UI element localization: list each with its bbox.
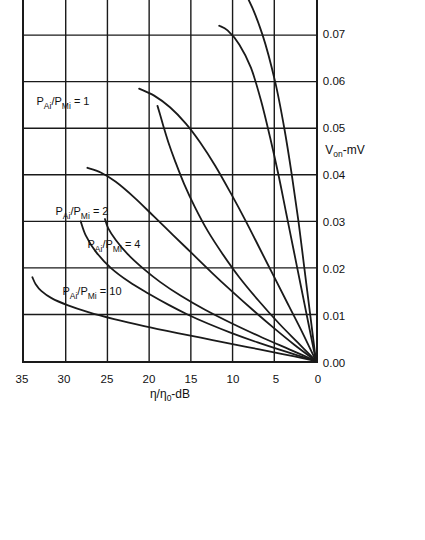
x-tick-label: 0.05 [323,122,345,134]
y-tick-label: 30 [58,373,71,385]
y-axis-title-units: -dB [171,387,190,401]
y-tick-label: 35 [16,373,29,385]
y-tick-label: 5 [273,373,279,385]
x-axis-title-main: V [325,143,333,157]
data-curve [139,89,316,361]
x-tick-label: 0.02 [323,263,345,275]
x-tick-label: 0.04 [323,169,345,181]
chart-figure: PAi/PMi = 10PAi/PMi = 4PAi/PMi = 2PAi/PM… [0,0,425,425]
y-axis-title: η/η0-dB [150,387,190,403]
y-tick-label: 0 [315,373,321,385]
x-axis-title-units: -mV [343,143,365,157]
figure-rotator: PAi/PMi = 10PAi/PMi = 4PAi/PMi = 2PAi/PM… [0,0,425,425]
y-tick-label: 25 [100,373,113,385]
curve-layer [24,0,316,361]
y-tick-label: 10 [227,373,240,385]
x-tick-label: 0.00 [323,357,345,369]
x-axis-title: Von-mV [325,143,364,159]
y-axis-title-main: η/η [150,387,167,401]
x-tick-label: 0.03 [323,216,345,228]
x-tick-label: 0.01 [323,310,345,322]
y-tick-label: 20 [142,373,155,385]
y-tick-label: 15 [185,373,198,385]
x-tick-label: 0.07 [323,28,345,40]
data-curve [157,106,316,361]
data-curve [153,0,316,361]
x-tick-label: 0.06 [323,75,345,87]
data-curve [87,168,316,361]
plot-area: PAi/PMi = 10PAi/PMi = 4PAi/PMi = 2PAi/PM… [22,0,318,363]
